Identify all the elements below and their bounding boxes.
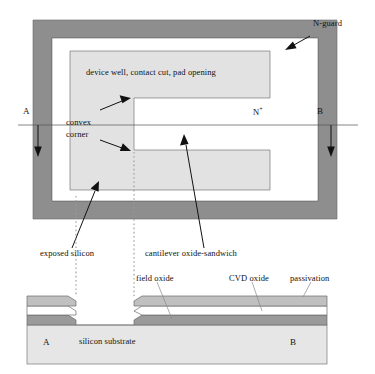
device-well-label: device well, contact cut, pad opening [86, 68, 216, 78]
silicon-substrate-label: silicon substrate [79, 337, 136, 347]
passivation-label: passivation [290, 274, 329, 284]
diagram-canvas [0, 0, 375, 374]
n-guard-label: N-guard [313, 19, 342, 29]
plan-section-marker-b: B [317, 106, 323, 116]
field-oxide-left [27, 315, 76, 325]
convex-corner-label-line1: convex [66, 118, 91, 128]
n-plus-label: N+ [253, 108, 263, 118]
passivation-left [27, 296, 76, 306]
cross-section-marker-b: B [290, 337, 296, 347]
cantilever-oxide-sandwich-label: cantilever oxide-sandwich [145, 249, 237, 259]
silicon-substrate-layer [27, 325, 327, 364]
cross-section-group [27, 282, 327, 364]
field-oxide-label: field oxide [136, 274, 174, 284]
convex-corner-label-line2: corner [66, 130, 88, 140]
cvd-oxide-right [134, 306, 327, 315]
process-diagram-figure: N-guard device well, contact cut, pad op… [0, 0, 375, 374]
exposed-silicon-label: exposed silicon [40, 249, 94, 259]
field-oxide-right [134, 315, 327, 325]
passivation-leader [303, 282, 311, 297]
cvd-oxide-label: CVD oxide [229, 274, 269, 284]
cvd-oxide-left [27, 306, 76, 315]
cross-section-marker-a: A [43, 337, 50, 347]
plan-section-marker-a: A [23, 106, 30, 116]
n-plus-superscript: + [259, 106, 262, 112]
